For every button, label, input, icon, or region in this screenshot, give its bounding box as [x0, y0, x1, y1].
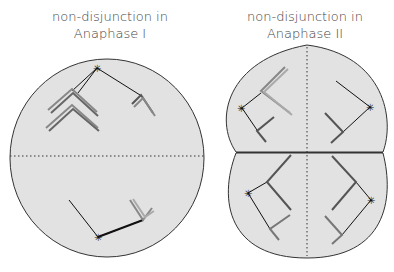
diagram-canvas: ✳ ✳ [0, 0, 394, 272]
centrosome-icon: ✳ [367, 195, 375, 206]
centrosome-icon: ✳ [366, 102, 374, 113]
centrosome-icon: ✳ [244, 188, 252, 199]
centrosome-icon: ✳ [93, 63, 101, 74]
centrosome-icon: ✳ [237, 103, 245, 114]
cell-anaphase-1: ✳ ✳ [10, 59, 204, 257]
lower-lobe [228, 153, 387, 258]
cell-anaphase-2: ✳ ✳ ✳ ✳ [226, 45, 387, 258]
centrosome-icon: ✳ [94, 232, 102, 243]
